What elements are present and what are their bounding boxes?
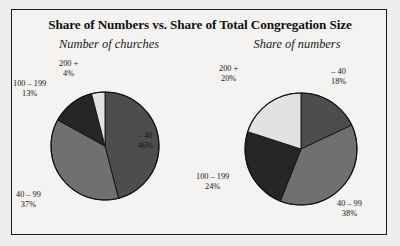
slice-percent: 18% [331,77,346,87]
slice-percent: 24% [196,182,229,192]
slice-percent: 37% [16,200,41,210]
pie-slice-label-left-200plus: 200 + 4% [59,59,78,79]
pie-slice-label-right-100-199: 100 – 199 24% [196,172,229,192]
slice-category: 40 – 99 [337,199,362,208]
chart-subtitle-right: Share of numbers [208,37,386,52]
figure-canvas: Share of Numbers vs. Share of Total Cong… [0,0,400,246]
pie-slice-label-left-40-99: 40 – 99 37% [16,190,41,210]
slice-category: 40 – 99 [16,190,41,199]
slice-category: 200 + [59,59,78,68]
pie-chart-right-svg [244,90,358,208]
slice-percent: 4% [59,69,78,79]
slice-category: 100 – 199 [13,79,46,88]
slice-percent: 46% [138,141,153,151]
chart-subtitle-left: Number of churches [20,37,198,52]
slice-percent: 13% [13,89,46,99]
pie-slice-label-left-100-199: 100 – 199 13% [13,79,46,99]
pie-chart-share-of-numbers [244,90,358,208]
pie-slice-label-left-minus40: – 40 46% [138,131,153,151]
slice-category: 200 + [219,64,238,73]
slice-percent: 20% [219,74,238,84]
pie-slice-label-right-200plus: 200 + 20% [219,64,238,84]
slice-percent: 38% [337,209,362,219]
pie-slice-label-right-minus40: – 40 18% [331,67,346,87]
slice-category: – 40 [138,131,153,140]
slice-category: – 40 [331,67,346,76]
pie-slice-label-right-40-99: 40 – 99 38% [337,199,362,219]
page-title: Share of Numbers vs. Share of Total Cong… [0,17,400,33]
slice-category: 100 – 199 [196,172,229,181]
